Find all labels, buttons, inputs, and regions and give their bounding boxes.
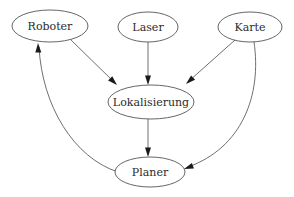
node-planer[interactable]: Planer (115, 157, 185, 187)
edge-line (70, 39, 114, 82)
edge-lokalisierung-to-planer (145, 119, 151, 157)
edge-roboter-to-lokalisierung (70, 39, 117, 85)
arrow-head-icon (145, 76, 151, 86)
diagram-canvas: RoboterLaserKarteLokalisierungPlaner (0, 0, 294, 197)
node-label: Planer (132, 166, 169, 179)
node-label: Laser (132, 21, 164, 34)
node-label: Roboter (28, 20, 73, 33)
arrow-head-icon (184, 163, 194, 169)
edge-line (39, 47, 118, 172)
edge-planer-to-roboter (35, 43, 118, 172)
node-roboter[interactable]: Roboter (12, 10, 88, 42)
edge-line (189, 40, 235, 81)
node-label: Lokalisierung (113, 96, 189, 109)
nodes-layer: RoboterLaserKarteLokalisierungPlaner (12, 10, 282, 187)
edge-karte-to-lokalisierung (186, 40, 235, 84)
edge-line (188, 42, 256, 167)
arrow-head-icon (35, 43, 41, 53)
node-karte[interactable]: Karte (218, 12, 282, 42)
edge-karte-to-planer (184, 42, 256, 169)
edge-laser-to-lokalisierung (145, 42, 151, 85)
node-laser[interactable]: Laser (118, 12, 178, 42)
directed-graph: RoboterLaserKarteLokalisierungPlaner (0, 0, 294, 197)
node-lokalisierung[interactable]: Lokalisierung (108, 85, 194, 119)
arrow-head-icon (145, 148, 151, 158)
node-label: Karte (235, 21, 266, 34)
